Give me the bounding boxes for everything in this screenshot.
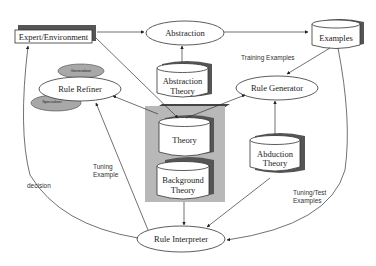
generalizer-node[interactable]: Generalizer: [58, 64, 104, 78]
edge-examples-to-rule-generator: [287, 48, 330, 74]
training-examples-label: Training Examples: [241, 54, 295, 62]
abstraction-label: Abstraction: [165, 28, 205, 38]
abstraction-node[interactable]: Abstraction: [146, 21, 224, 45]
expert-environment-label: Expert/Environment: [19, 32, 89, 42]
abstraction-theory-label-1: Abstraction: [163, 76, 203, 86]
background-theory-label-2: Theory: [171, 185, 196, 195]
generalizer-label: Generalizer: [71, 68, 92, 73]
tuning-test-label-1: Tuning/Test: [293, 189, 327, 197]
decision-label: decision: [27, 182, 51, 189]
rule-generator-node[interactable]: Rule Generator: [236, 76, 318, 100]
rule-refiner-node[interactable]: Rule Refiner: [39, 77, 121, 101]
examples-label: Examples: [319, 33, 353, 43]
rule-generator-label: Rule Generator: [251, 83, 303, 93]
abstraction-theory-node[interactable]: Abstraction Theory: [157, 61, 212, 97]
background-theory-label-1: Background: [162, 175, 204, 185]
tuning-example-label-2: Example: [93, 171, 119, 179]
tuning-test-label-2: Examples: [293, 197, 322, 205]
edge-theory-to-rule-refiner: [113, 96, 158, 114]
tuning-example-label-1: Tuning: [93, 163, 113, 171]
abstraction-theory-label-2: Theory: [170, 86, 195, 96]
rule-refiner-label: Rule Refiner: [58, 84, 102, 94]
rule-interpreter-label: Rule Interpreter: [154, 234, 208, 244]
expert-environment-box[interactable]: Expert/Environment: [15, 25, 96, 43]
theory-label: Theory: [172, 135, 197, 145]
background-theory-node[interactable]: Background Theory: [157, 157, 214, 199]
rule-interpreter-node[interactable]: Rule Interpreter: [137, 226, 225, 252]
abduction-theory-label-2: Theory: [263, 158, 288, 168]
theory-node[interactable]: Theory: [159, 115, 214, 156]
abduction-theory-node[interactable]: Abduction Theory: [250, 133, 305, 173]
rule-learning-diagram: Expert/Environment Abstraction Examples …: [0, 0, 376, 266]
